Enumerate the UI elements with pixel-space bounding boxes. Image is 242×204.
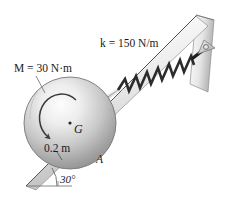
radius-label: 0.2 m [44, 142, 70, 154]
moment-label: M = 30 N·m [14, 62, 72, 74]
mechanics-diagram: 30° G 0.2 m A M = 30 N·m k = 150 N/m [0, 0, 242, 204]
contact-point-label: A [95, 153, 104, 165]
center-point [68, 121, 71, 124]
pin-joint [204, 45, 209, 50]
spring-constant-label: k = 150 N/m [100, 37, 159, 49]
figure-canvas: 30° G 0.2 m A M = 30 N·m k = 150 N/m [0, 0, 242, 204]
center-label: G [74, 122, 83, 136]
incline-angle-label: 30° [59, 173, 76, 185]
